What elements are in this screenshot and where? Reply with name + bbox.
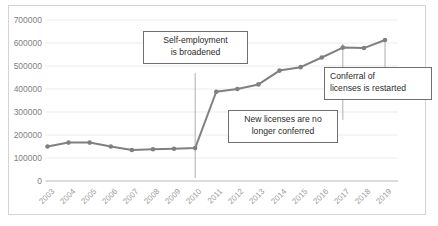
annotation-line: is broadened	[149, 47, 242, 59]
annotation-line: Self-employment	[149, 35, 242, 47]
annotation-line: New licenses are no	[234, 114, 332, 126]
data-point-marker	[87, 140, 92, 145]
data-point-marker	[214, 89, 219, 94]
annotation-conferral-restarted: Conferral oflicenses is restarted	[324, 67, 432, 100]
data-point-marker	[341, 45, 346, 50]
y-tick-label: 200000	[0, 130, 42, 140]
data-point-marker	[277, 68, 282, 73]
data-point-marker	[362, 46, 367, 51]
data-point-marker	[193, 146, 198, 151]
data-point-marker	[151, 147, 156, 152]
annotation-line: Conferral of	[330, 71, 426, 83]
annotation-self-employment: Self-employmentis broadened	[143, 31, 248, 64]
y-tick-label: 100000	[0, 153, 42, 163]
data-point-marker	[319, 55, 324, 60]
annotation-line: licenses is restarted	[330, 83, 426, 95]
data-point-marker	[108, 144, 113, 149]
data-point-marker	[66, 140, 71, 145]
y-tick-label: 0	[0, 176, 42, 186]
y-tick-label: 700000	[0, 15, 42, 25]
data-point-marker	[235, 87, 240, 92]
data-point-marker	[298, 65, 303, 70]
y-tick-label: 500000	[0, 61, 42, 71]
data-point-marker	[256, 82, 261, 87]
data-point-marker	[172, 147, 177, 152]
data-point-marker	[383, 38, 388, 43]
annotation-new-licenses: New licenses are nolonger conferred	[228, 110, 338, 143]
data-point-marker	[130, 148, 135, 153]
y-tick-label: 400000	[0, 84, 42, 94]
y-tick-label: 300000	[0, 107, 42, 117]
annotation-line: longer conferred	[234, 126, 332, 138]
data-point-marker	[45, 144, 50, 149]
y-tick-label: 600000	[0, 38, 42, 48]
